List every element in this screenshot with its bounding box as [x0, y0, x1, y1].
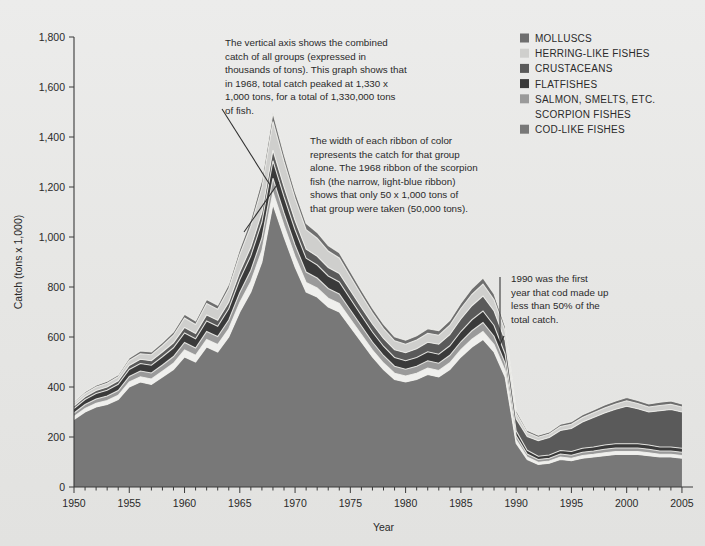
annotation-line: total catch. [511, 314, 558, 325]
x-tick-label: 1965 [228, 497, 252, 509]
leader-line-peak [222, 109, 270, 185]
y-tick-label: 400 [47, 381, 65, 393]
y-tick-label: 200 [47, 431, 65, 443]
annotation-line: in 1968, total catch peaked at 1,330 x [225, 78, 388, 89]
annotation-line: 1,000 tons, for a total of 1,330,000 ton… [225, 91, 396, 102]
x-tick-label: 1950 [62, 497, 86, 509]
legend-label: MOLLUSCS [535, 33, 592, 44]
x-tick-label: 1960 [173, 497, 197, 509]
legend: MOLLUSCSHERRING-LIKE FISHESCRUSTACEANSFL… [520, 33, 655, 135]
y-tick-label: 1,000 [39, 231, 65, 243]
x-axis-title: Year [373, 521, 395, 533]
fish-catch-stacked-area-chart: 02004006008001,0001,2001,4001,6001,80019… [0, 0, 705, 546]
y-axis-title: Catch (tons x 1,000) [12, 215, 24, 310]
x-tick-label: 1990 [504, 497, 528, 509]
legend-swatch [520, 94, 529, 103]
annotation-line: The vertical axis shows the combined [225, 37, 388, 48]
x-tick-label: 2000 [615, 497, 639, 509]
annotation-line: The width of each ribbon of color [310, 135, 453, 146]
x-tick-label: 1985 [449, 497, 473, 509]
y-tick-label: 1,200 [39, 181, 65, 193]
y-tick-label: 1,400 [39, 131, 65, 143]
legend-swatch [520, 64, 529, 73]
x-tick-label: 1995 [560, 497, 584, 509]
x-tick-label: 1970 [283, 497, 307, 509]
ribbon-width-annotation: The width of each ribbon of colorreprese… [310, 135, 478, 214]
y-tick-label: 800 [47, 281, 65, 293]
annotation-line: of fish. [225, 105, 254, 116]
legend-label: COD-LIKE FISHES [535, 124, 625, 135]
y-tick-label: 1,800 [39, 31, 65, 43]
peak-annotation: The vertical axis shows the combinedcatc… [225, 37, 407, 116]
y-tick-label: 1,600 [39, 81, 65, 93]
legend-swatch [520, 34, 529, 43]
cod-1990-annotation: 1990 was the firstyear that cod made upl… [511, 273, 609, 325]
y-tick-label: 0 [59, 481, 65, 493]
annotation-line: alone. The 1968 ribbon of the scorpion [310, 162, 478, 173]
legend-swatch [520, 49, 529, 58]
annotation-line: that group were taken (50,000 tons). [310, 203, 468, 214]
legend-label: SCORPION FISHES [535, 109, 631, 120]
annotation-line: represents the catch for that group [310, 149, 460, 160]
chart-canvas: 02004006008001,0001,2001,4001,6001,80019… [0, 0, 705, 546]
legend-label: HERRING-LIKE FISHES [535, 48, 650, 59]
legend-label: SALMON, SMELTS, ETC. [535, 94, 655, 105]
legend-label: CRUSTACEANS [535, 63, 613, 74]
annotation-line: shows that only 50 x 1,000 tons of [310, 189, 458, 200]
x-tick-label: 1980 [394, 497, 418, 509]
annotation-line: year that cod made up [511, 287, 609, 298]
legend-label: FLATFISHES [535, 79, 597, 90]
legend-swatch [520, 79, 529, 88]
annotation-line: fish (the narrow, light-blue ribbon) [310, 176, 455, 187]
x-tick-label: 1955 [118, 497, 142, 509]
annotation-line: thousands of tons). This graph shows tha… [225, 64, 407, 75]
y-tick-label: 600 [47, 331, 65, 343]
x-tick-label: 2005 [670, 497, 694, 509]
annotation-line: 1990 was the first [511, 273, 588, 284]
x-tick-label: 1975 [339, 497, 363, 509]
annotation-line: less than 50% of the [511, 300, 600, 311]
annotation-line: catch of all groups (expressed in [225, 51, 366, 62]
legend-swatch [520, 125, 529, 134]
